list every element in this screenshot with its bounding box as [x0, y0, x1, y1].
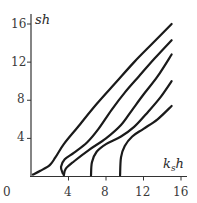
- x-tick-label-16: 16: [173, 185, 188, 199]
- series-line-1: [33, 24, 172, 175]
- y-tick-label-12: 12: [11, 55, 26, 69]
- x-tick-label-8: 8: [101, 185, 109, 199]
- y-tick-label-8: 8: [17, 92, 25, 106]
- chart: 0 4 8 12 16 16 12 8 4 sh ksh: [0, 0, 197, 203]
- x-tick-label-4: 4: [64, 185, 72, 199]
- x-tick-label-0: 0: [3, 185, 11, 199]
- y-tick-label-4: 4: [17, 130, 25, 144]
- x-tick-label-12: 12: [135, 185, 150, 199]
- series-line-2: [61, 40, 172, 173]
- y-axis-title: sh: [35, 12, 50, 27]
- x-axis-title: ksh: [163, 156, 184, 173]
- plot-lines: [33, 24, 172, 176]
- y-tick-label-16: 16: [11, 17, 26, 31]
- x-ticks: [69, 177, 182, 181]
- series-line-3: [64, 55, 172, 176]
